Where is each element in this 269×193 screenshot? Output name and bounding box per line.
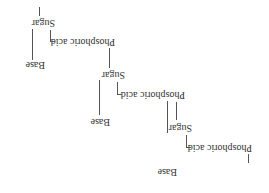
chain-top-tick xyxy=(248,154,249,163)
phosphate-sugar-bracket-foot-2 xyxy=(117,94,122,95)
phosphoric-acid-label-3: Phosphoric acid xyxy=(51,37,115,47)
base-label-2: Base xyxy=(91,117,110,127)
sugar-label-3: Sugar xyxy=(32,18,55,28)
phosphoric-acid-label-2: Phosphoric acid xyxy=(121,90,185,100)
phosphate-sugar-bracket-foot-1 xyxy=(186,147,191,148)
base-label-1: Base xyxy=(158,167,177,177)
sugar-label-1: Sugar xyxy=(169,123,192,133)
sugar-base-line-2 xyxy=(99,80,100,115)
base-label-3: Base xyxy=(26,60,45,70)
sugar-phosphate-line-1 xyxy=(176,102,177,120)
sugar-base-line-3 xyxy=(32,29,33,60)
sugar-phosphate-line-2 xyxy=(109,48,110,68)
phosphoric-acid-label-1: Phosphoric acid xyxy=(188,143,252,153)
sugar-base-line-1 xyxy=(167,101,168,133)
chain-bottom-tick xyxy=(39,7,40,16)
nucleotide-chain-diagram: Phosphoric acid Sugar Base Phosphoric ac… xyxy=(0,0,269,193)
phosphate-sugar-bracket-foot-3 xyxy=(50,41,55,42)
sugar-label-2: Sugar xyxy=(102,70,125,80)
